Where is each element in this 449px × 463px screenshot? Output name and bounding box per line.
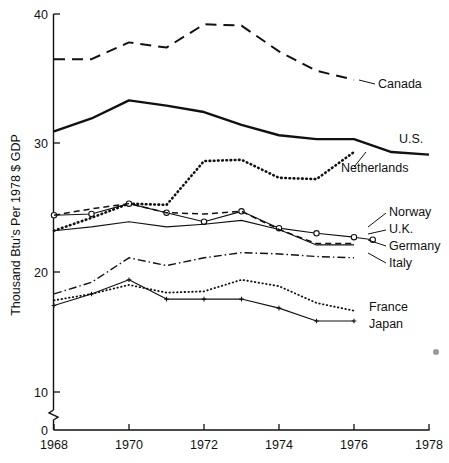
y-axis-title: Thousand Btu's Per 1978 $ GDP	[9, 134, 23, 316]
series-label-germany: Germany	[389, 239, 441, 253]
series-label-norway: Norway	[389, 205, 432, 219]
x-tick-label-1978: 1978	[415, 438, 443, 452]
x-tick-label-1972: 1972	[190, 438, 218, 452]
series-line-italy	[54, 253, 354, 294]
series-label-us: U.S.	[399, 132, 423, 146]
y-tick-label-0: 0	[41, 424, 48, 438]
x-tick-label-1976: 1976	[340, 438, 368, 452]
line-chart-canvas: 40 30 20 10 0 1968 1970 1972 1974 1976 1…	[0, 0, 449, 463]
leader-canada	[359, 80, 375, 84]
series-label-uk: U.K.	[389, 222, 413, 236]
x-tick-label-1970: 1970	[115, 438, 143, 452]
series-line-canada	[54, 24, 354, 79]
leader-norway	[368, 213, 386, 227]
y-tick-label-10: 10	[34, 386, 48, 400]
series-marker-japan	[239, 297, 244, 302]
series-marker-japan	[127, 277, 132, 282]
axes-group	[49, 14, 430, 430]
series-marker-norway	[314, 231, 319, 236]
ink-speck	[433, 349, 439, 355]
y-tick-labels: 40 30 20 10 0	[34, 8, 48, 438]
series-marker-norway	[89, 211, 94, 216]
series-marker-norway	[351, 234, 356, 239]
series-marker-japan	[164, 297, 169, 302]
series-marker-japan	[352, 319, 357, 324]
series-marker-japan	[314, 319, 319, 324]
leader-uk	[368, 230, 386, 234]
leader-germany	[368, 240, 386, 246]
series-marker-japan	[277, 306, 282, 311]
leader-italy	[368, 253, 386, 263]
y-tick-label-40: 40	[34, 8, 48, 22]
series-labels: Canada U.S. Netherlands Norway U.K. Germ…	[341, 77, 441, 331]
y-tick-label-20: 20	[34, 266, 48, 280]
x-tick-label-1974: 1974	[265, 438, 293, 452]
x-tick-labels: 1968 1970 1972 1974 1976 1978	[40, 438, 443, 452]
series-line-france	[54, 280, 354, 311]
series-label-italy: Italy	[389, 256, 413, 270]
series-marker-norway	[239, 209, 244, 214]
series-line-u-s	[54, 100, 429, 154]
series-marker-japan	[52, 303, 57, 308]
series-marker-japan	[202, 297, 207, 302]
series-label-japan: Japan	[369, 317, 403, 331]
series-line-norway	[54, 204, 373, 240]
series-marker-japan	[89, 292, 94, 297]
y-tick-label-30: 30	[34, 137, 48, 151]
x-tick-label-1968: 1968	[40, 438, 68, 452]
series-label-canada: Canada	[378, 77, 422, 91]
series-label-netherlands: Netherlands	[341, 161, 408, 175]
series-label-france: France	[369, 300, 408, 314]
chart-figure: 40 30 20 10 0 1968 1970 1972 1974 1976 1…	[0, 0, 449, 463]
